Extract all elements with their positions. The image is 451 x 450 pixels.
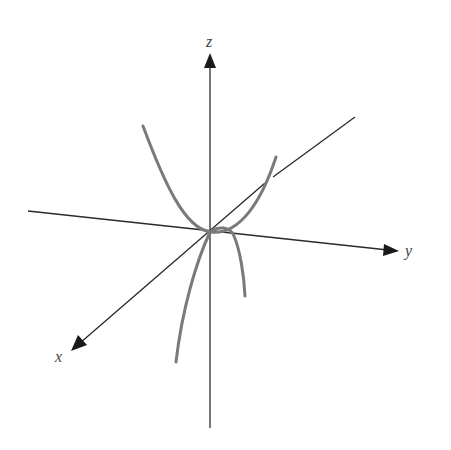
cubic-curve-lower-branch — [176, 232, 210, 362]
x-axis-label: x — [55, 349, 62, 365]
z-arrow-icon — [204, 53, 216, 68]
x-axis — [71, 117, 355, 351]
y-axis-label: y — [405, 243, 412, 259]
x-arrow-icon — [71, 335, 87, 351]
y-arrow-icon — [383, 244, 399, 256]
z-axis-label: z — [206, 34, 212, 50]
cubic-curve-right-branch — [210, 228, 245, 296]
